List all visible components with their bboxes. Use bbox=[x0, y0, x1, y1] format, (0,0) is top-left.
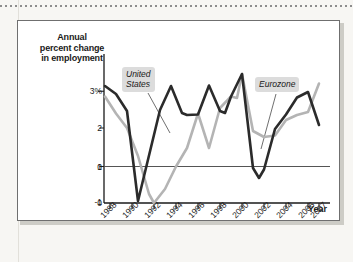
x-tick-label-1988: 1988 bbox=[98, 200, 118, 220]
figure-container: Annual percent change in employment bbox=[17, 20, 340, 221]
x-axis-tick-labels: 1988 1990 1992 1994 1996 1998 2000 2002 … bbox=[18, 21, 341, 222]
series-label-united-states: United States bbox=[122, 67, 155, 92]
top-dotted-rule bbox=[0, 5, 353, 7]
x-tick-label-1992: 1992 bbox=[142, 200, 162, 220]
page-background: Annual percent change in employment bbox=[0, 0, 353, 262]
x-tick-label-2002: 2002 bbox=[252, 200, 272, 220]
x-tick-label-1996: 1996 bbox=[186, 200, 206, 220]
x-axis-title: Year bbox=[308, 204, 327, 214]
x-tick-label-1998: 1998 bbox=[208, 200, 228, 220]
plot-area: Annual percent change in employment bbox=[18, 21, 341, 222]
x-tick-label-2004: 2004 bbox=[274, 200, 294, 220]
series-label-united-states-line-2: States bbox=[126, 79, 151, 89]
x-tick-label-2000: 2000 bbox=[230, 200, 250, 220]
x-tick-label-1994: 1994 bbox=[164, 200, 184, 220]
x-tick-label-1990: 1990 bbox=[120, 200, 140, 220]
series-label-united-states-line-1: United bbox=[126, 69, 151, 79]
series-label-eurozone: Eurozone bbox=[255, 77, 299, 92]
